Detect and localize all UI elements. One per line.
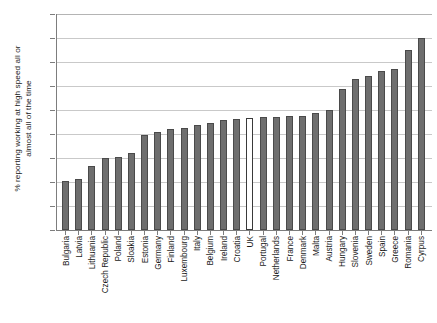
xtick-slot [401, 231, 414, 235]
xtick-slot [283, 231, 296, 235]
ytick-mark-30 [50, 86, 55, 87]
xtick-mark [263, 231, 264, 235]
xtick-label-estonia: Estonia [140, 236, 149, 263]
bar-finland[interactable] [167, 129, 174, 230]
bar-czech-republic[interactable] [102, 158, 109, 230]
xtick-mark [197, 231, 198, 235]
bar-belgium[interactable] [207, 123, 214, 230]
xtick-slot [243, 231, 256, 235]
xtick-mark [118, 231, 119, 235]
xtick-label-malta: Malta [311, 236, 320, 256]
xtick-mark [355, 231, 356, 235]
xlabel-slot: Slovenia [349, 236, 362, 320]
bar-lithuania[interactable] [88, 166, 95, 230]
bar-slot [72, 14, 85, 230]
bar-bulgaria[interactable] [62, 181, 69, 230]
xlabel-slot: Germany [151, 236, 164, 320]
bar-estonia[interactable] [141, 135, 148, 230]
bar-germany[interactable] [154, 132, 161, 230]
y-axis-title: % reporting working at high speed all or… [13, 4, 34, 234]
bar-poland[interactable] [115, 157, 122, 230]
xtick-slot [138, 231, 151, 235]
xtick-slot [349, 231, 362, 235]
xtick-slot [257, 231, 270, 235]
xtick-label-luxembourg: Luxembourg [180, 236, 189, 282]
bar-france[interactable] [286, 116, 293, 230]
bar-slot [164, 14, 177, 230]
bar-slot [85, 14, 98, 230]
xtick-mark [329, 231, 330, 235]
xtick-slot [309, 231, 322, 235]
bar-slot [151, 14, 164, 230]
bar-spain[interactable] [378, 71, 385, 230]
ytick-mark-10 [50, 182, 55, 183]
bar-netherlands[interactable] [273, 117, 280, 230]
bar-series [56, 14, 431, 230]
bar-romania[interactable] [405, 50, 412, 230]
bar-slot [296, 14, 309, 230]
bar-hungary[interactable] [339, 89, 346, 230]
xtick-slot [270, 231, 283, 235]
xlabel-slot: Bulgaria [59, 236, 72, 320]
xlabel-slot: Greece [388, 236, 401, 320]
bar-uk[interactable] [246, 118, 253, 230]
bar-sweden[interactable] [365, 76, 372, 230]
xtick-slot [336, 231, 349, 235]
xlabel-slot: Netherlands [270, 236, 283, 320]
xtick-mark [342, 231, 343, 235]
bar-sloakia[interactable] [128, 153, 135, 230]
bar-latvia[interactable] [75, 179, 82, 230]
bar-croatia[interactable] [233, 119, 240, 230]
bar-cyrpus[interactable] [418, 38, 425, 230]
xlabel-slot: Croatia [230, 236, 243, 320]
xtick-mark [368, 231, 369, 235]
bar-slot [191, 14, 204, 230]
xlabel-slot: Denmark [296, 236, 309, 320]
xtick-slot [204, 231, 217, 235]
xtick-slot [99, 231, 112, 235]
xtick-mark [131, 231, 132, 235]
xtick-label-uk: UK [245, 236, 254, 247]
xtick-mark [381, 231, 382, 235]
xtick-slot [151, 231, 164, 235]
xtick-label-sweden: Sweden [364, 236, 373, 266]
xtick-slot [85, 231, 98, 235]
bar-greece[interactable] [391, 69, 398, 230]
bar-slot [243, 14, 256, 230]
bar-slot [362, 14, 375, 230]
xlabel-slot: Italy [191, 236, 204, 320]
bar-slot [138, 14, 151, 230]
xtick-mark [223, 231, 224, 235]
xtick-slot [362, 231, 375, 235]
xtick-mark [91, 231, 92, 235]
x-axis-ticks [56, 231, 431, 235]
xlabel-slot: Estonia [138, 236, 151, 320]
bar-italy[interactable] [194, 125, 201, 230]
xlabel-slot: Portugal [257, 236, 270, 320]
bar-malta[interactable] [312, 113, 319, 230]
bar-slot [204, 14, 217, 230]
bar-ireland[interactable] [220, 120, 227, 230]
xtick-label-germany: Germany [153, 236, 162, 270]
bar-luxembourg[interactable] [181, 128, 188, 230]
xtick-mark [249, 231, 250, 235]
ytick-mark-5 [50, 206, 55, 207]
bar-slot [257, 14, 270, 230]
bar-portugal[interactable] [260, 117, 267, 230]
bar-slot [230, 14, 243, 230]
xtick-mark [315, 231, 316, 235]
bar-denmark[interactable] [299, 116, 306, 230]
xtick-slot [217, 231, 230, 235]
xlabel-slot: Ireland [217, 236, 230, 320]
bar-austria[interactable] [326, 110, 333, 230]
xtick-slot [178, 231, 191, 235]
bar-slot [336, 14, 349, 230]
bar-slot [375, 14, 388, 230]
bar-slovenia[interactable] [352, 79, 359, 230]
bar-slot [283, 14, 296, 230]
xtick-label-netherlands: Netherlands [272, 236, 281, 280]
bar-slot [322, 14, 335, 230]
xlabel-slot: Belgium [204, 236, 217, 320]
xlabel-slot: Latvia [72, 236, 85, 320]
ytick-mark-0 [50, 230, 55, 231]
